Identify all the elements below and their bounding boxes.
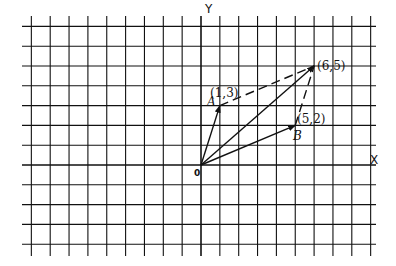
vector-diagram: Y X 0 (1,3) A (5,2) B (6,5) <box>0 0 396 266</box>
point-a-label: A <box>206 95 216 109</box>
coordinate-grid: Y X 0 (1,3) A (5,2) B (6,5) <box>0 0 396 266</box>
point-b-label: B <box>292 129 302 143</box>
sum-point-coords: (6,5) <box>317 59 345 73</box>
grid-lines <box>22 16 376 256</box>
origin-label: 0 <box>194 168 200 178</box>
y-axis-label: Y <box>204 2 213 16</box>
point-b-coords: (5,2) <box>297 112 325 126</box>
x-axis-label: X <box>370 153 378 167</box>
